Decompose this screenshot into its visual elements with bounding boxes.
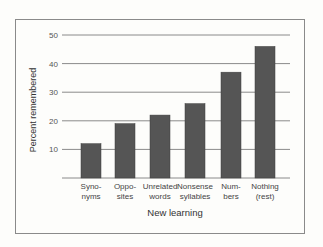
y-tick-label: 40 (49, 60, 58, 69)
x-category-label: sites (117, 192, 133, 201)
x-axis-label: New learning (147, 207, 202, 218)
x-category-label: bers (223, 192, 239, 201)
bars (81, 46, 275, 178)
bar (81, 144, 101, 178)
y-tick-label: 20 (49, 117, 58, 126)
y-tick-label: 50 (49, 31, 58, 40)
x-category-label: Num- (221, 182, 241, 191)
bar (115, 124, 135, 178)
x-category-labels: Syno-nymsOppo-sitesUnrelatedwordsNonsens… (81, 182, 279, 201)
x-category-label: Unrelated (143, 182, 178, 191)
y-tick-label: 30 (49, 88, 58, 97)
bar (150, 115, 170, 178)
x-category-label: Syno- (81, 182, 102, 191)
x-category-label: (rest) (256, 192, 275, 201)
x-category-label: Nonsense (177, 182, 214, 191)
bar (255, 46, 275, 178)
x-category-label: nyms (81, 192, 100, 201)
x-category-label: Oppo- (114, 182, 137, 191)
bar-chart: 1020304050 Syno-nymsOppo-sitesUnrelatedw… (0, 0, 323, 247)
x-category-label: words (148, 192, 170, 201)
y-tick-labels: 1020304050 (49, 31, 58, 154)
y-tick-label: 10 (49, 145, 58, 154)
y-axis-label: Percent remembered (28, 68, 38, 153)
bar (221, 72, 241, 178)
x-category-label: Nothing (251, 182, 279, 191)
x-category-label: syllables (180, 192, 211, 201)
bar (185, 104, 205, 178)
